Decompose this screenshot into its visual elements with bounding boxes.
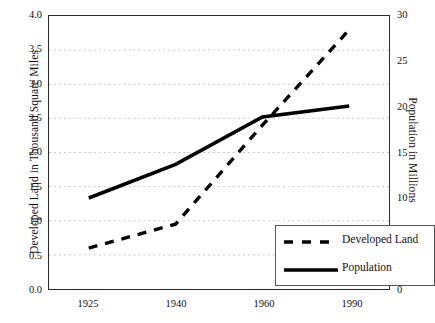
y-right-tick-15: 15 [397, 147, 431, 158]
legend-item-developed-land: Developed Land [276, 228, 434, 256]
y-right-tick-25: 25 [397, 55, 431, 66]
x-tick-1960: 1960 [234, 298, 294, 309]
y-right-tick-20: 20 [397, 101, 431, 112]
y-left-tick-3-0: 3.0 [8, 78, 42, 89]
y-left-tick-2-5: 2.5 [8, 112, 42, 123]
x-tick-1925: 1925 [58, 298, 118, 309]
y-left-tick-1-5: 1.5 [8, 181, 42, 192]
y-left-tick-4-0: 4.0 [8, 9, 42, 20]
y-right-tick-30: 30 [397, 9, 431, 20]
legend-label-developed-land: Developed Land [342, 233, 418, 245]
y-left-tick-2-0: 2.0 [8, 146, 42, 157]
series-line-population [89, 106, 349, 198]
chart-figure: Developed Land in Thousand Square Miles … [0, 0, 435, 323]
legend-label-population: Population [342, 261, 392, 273]
x-tick-1940: 1940 [146, 298, 206, 309]
x-tick-1990: 1990 [322, 298, 382, 309]
y-left-tick-0-5: 0.5 [8, 250, 42, 261]
plot-area: Developed Land Population [48, 15, 390, 290]
legend-swatch-solid-icon [284, 268, 338, 272]
legend-item-population: Population [276, 256, 434, 284]
y-left-tick-0-0: 0.0 [8, 284, 42, 295]
y-right-tick-10: 10 [397, 192, 431, 203]
y-left-tick-1-0: 1.0 [8, 215, 42, 226]
legend-swatch-dashed-icon [284, 240, 338, 244]
y-left-tick-3-5: 3.5 [8, 43, 42, 54]
chart-legend: Developed Land Population [275, 225, 435, 286]
